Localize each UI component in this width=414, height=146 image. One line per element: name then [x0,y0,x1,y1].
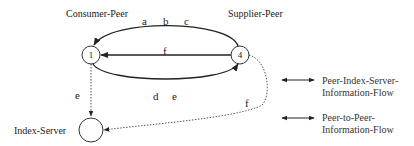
edge-label-e-left: e [75,89,80,101]
index-server-caption: Index-Server [14,125,67,136]
legend-index-flow-line1: Peer-Index-Server- [322,75,398,87]
legend-p2p-flow-line1: Peer-to-Peer- [322,112,394,124]
edge-label-b: b [163,15,169,27]
edge-label-f-right: f [245,97,249,109]
edge-supplier-to-index [104,55,267,130]
node-1-label: 1 [89,50,94,60]
legend-item-index-flow: Peer-Index-Server- Information-Flow [322,75,398,99]
edge-label-c: c [184,15,189,27]
edge-label-d: d [153,90,159,102]
node-consumer-peer: 1 [82,46,100,64]
supplier-peer-caption: Supplier-Peer [228,8,283,19]
edge-label-e-bottom: e [172,90,177,102]
edge-top-arc [94,26,238,46]
legend-index-flow-line2: Information-Flow [322,87,398,99]
node-index-server [79,118,103,142]
node-4-label: 4 [238,50,243,60]
legend-p2p-flow-line2: Information-Flow [322,124,394,136]
edge-bottom-arc [93,64,238,79]
edge-label-a: a [142,15,147,27]
consumer-peer-caption: Consumer-Peer [66,8,129,19]
node-supplier-peer: 4 [231,46,249,64]
legend-item-p2p-flow: Peer-to-Peer- Information-Flow [322,112,394,136]
edge-label-f-middle: f [163,45,167,57]
